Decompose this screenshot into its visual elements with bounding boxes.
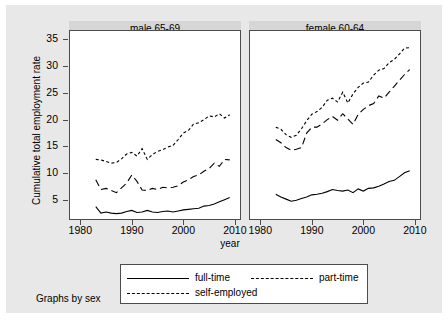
x-axis-tick-label: 1990 [112,224,152,236]
legend-label-part-time: part-time [319,271,358,285]
series-full-time [276,171,410,202]
legend-label-full-time: full-time [195,271,230,285]
legend-swatch-part-time [251,278,313,279]
x-axis-tick-label: 1980 [240,224,280,236]
y-axis-tick-mark [63,146,68,147]
y-axis-tick-mark [63,66,68,67]
graph-canvas: Cumulative total employment rate 5101520… [6,5,442,313]
x-axis-tick-label: 2000 [343,224,383,236]
legend-label-self-employed: self-employed [195,286,257,300]
x-axis-tick-label: 1980 [60,224,100,236]
series-part-time [96,159,230,192]
y-axis-tick-label: 25 [36,87,58,97]
y-axis-tick-label: 20 [36,114,58,124]
y-axis-tick-label: 10 [36,167,58,177]
y-axis-tick-mark [63,120,68,121]
x-axis-tick-label: 2000 [163,224,203,236]
series-self-employed [276,48,410,138]
y-axis-tick-label: 35 [36,33,58,43]
legend: full-time part-time self-employed [120,264,368,304]
y-axis-tick-mark [63,173,68,174]
y-axis-tick-mark [63,200,68,201]
plot-region-male [69,30,241,220]
series-full-time [96,198,230,214]
y-axis-tick-label: 30 [36,60,58,70]
series-lines-female [250,31,420,219]
y-axis-tick-mark [63,39,68,40]
x-axis-tick-label: 2010 [395,224,435,236]
legend-swatch-full-time [127,278,189,279]
plot-region-female [249,30,421,220]
stata-graph-figure: Cumulative total employment rate 5101520… [0,0,448,323]
series-self-employed [96,114,230,163]
y-axis-tick-label: 5 [36,194,58,204]
x-axis-tick-label: 1990 [292,224,332,236]
series-lines-male [70,31,240,219]
graph-by-note: Graphs by sex [36,293,100,304]
x-axis-title: year [6,238,448,249]
y-axis-tick-mark [63,93,68,94]
series-part-time [276,70,410,151]
legend-swatch-self-employed [127,293,189,294]
y-axis-tick-label: 15 [36,140,58,150]
